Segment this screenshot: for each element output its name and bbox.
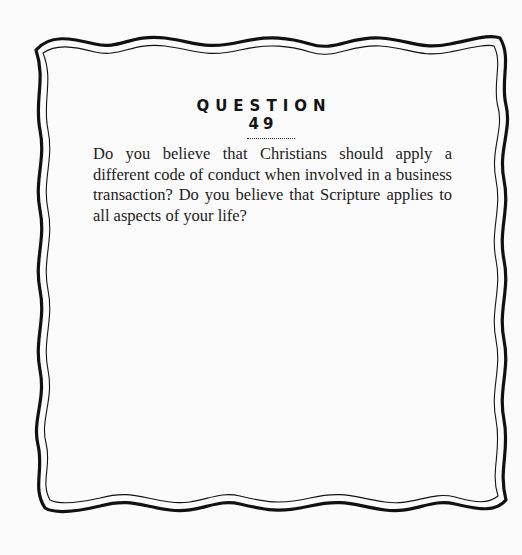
dotted-divider: [247, 138, 295, 139]
question-label: QUESTION: [0, 97, 522, 115]
question-number: 49: [0, 115, 522, 133]
question-body: Do you believe that Christians should ap…: [93, 144, 452, 226]
wavy-border-frame: [0, 0, 522, 555]
question-heading: QUESTION 49: [0, 97, 522, 133]
